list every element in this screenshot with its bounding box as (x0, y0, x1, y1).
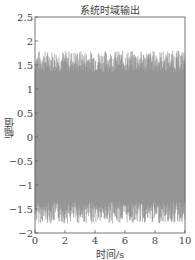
y-tick-label: −1 (18, 180, 33, 191)
y-tick-label: −0.5 (9, 156, 33, 167)
y-tick-label: 0.5 (17, 108, 33, 119)
y-tick-label: 2.5 (17, 12, 33, 23)
y-tick-label: −1.5 (9, 204, 33, 215)
y-tick-label: 2 (27, 36, 33, 47)
x-tick-label: 6 (122, 235, 128, 246)
x-tick-label: 2 (62, 235, 68, 246)
x-tick-label: 8 (152, 235, 158, 246)
y-tick-label: 1.5 (17, 60, 33, 71)
x-tick-label: 4 (92, 235, 98, 246)
y-tick-label: 1 (27, 84, 33, 95)
x-tick-label: 10 (179, 235, 192, 246)
y-tick-label: 0 (27, 132, 33, 143)
signal-trace (35, 51, 185, 224)
y-tick-label: −2 (18, 228, 33, 239)
plot-area: 0246810−2−1.5−1−0.500.511.522.5 (0, 0, 195, 260)
